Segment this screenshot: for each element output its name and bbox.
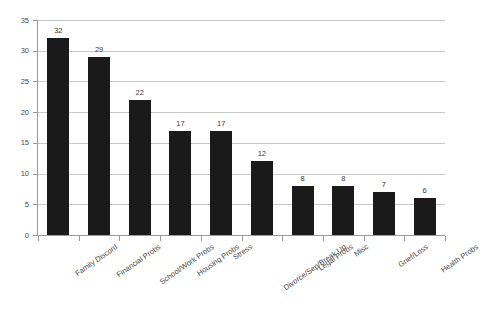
- bar-value-label: 7: [369, 181, 399, 189]
- bar[interactable]: [88, 57, 110, 235]
- y-tick-label: 15: [21, 140, 29, 148]
- bar[interactable]: [47, 38, 69, 235]
- bar[interactable]: [251, 161, 273, 235]
- x-tick-mark: [38, 236, 39, 241]
- x-axis-category-label: Grief/Loss: [397, 243, 429, 269]
- x-tick-mark: [201, 236, 202, 241]
- y-tick-label: 25: [21, 78, 29, 86]
- x-tick-mark: [242, 236, 243, 241]
- y-tick-label: 30: [21, 47, 29, 55]
- plot-area: 3229221717128876: [38, 20, 445, 235]
- x-tick-mark: [404, 236, 405, 241]
- y-tick-label: 20: [21, 109, 29, 117]
- x-tick-mark: [282, 236, 283, 241]
- x-tick-mark: [119, 236, 120, 241]
- bar[interactable]: [373, 192, 395, 235]
- x-tick-mark: [160, 236, 161, 241]
- bar-value-label: 12: [247, 150, 277, 158]
- bar-value-label: 17: [165, 120, 195, 128]
- x-tick-mark: [323, 236, 324, 241]
- bar[interactable]: [129, 100, 151, 235]
- bar-value-label: 6: [410, 187, 440, 195]
- bar[interactable]: [169, 131, 191, 235]
- bar-value-label: 8: [328, 175, 358, 183]
- y-tick-label: 10: [21, 170, 29, 178]
- gridline: [38, 20, 445, 21]
- bar[interactable]: [210, 131, 232, 235]
- y-tick-label: 0: [25, 232, 29, 240]
- x-tick-mark: [364, 236, 365, 241]
- bar-value-label: 8: [288, 175, 318, 183]
- bar-value-label: 22: [125, 89, 155, 97]
- x-axis-category-label: Misc: [353, 243, 370, 258]
- bar-value-label: 29: [84, 46, 114, 54]
- bar[interactable]: [414, 198, 436, 235]
- y-tick-label: 35: [21, 17, 29, 25]
- x-axis-category-label: Family Discord: [74, 243, 119, 278]
- x-tick-mark: [445, 236, 446, 241]
- bar[interactable]: [292, 186, 314, 235]
- x-axis-category-label: Health Probs: [439, 243, 479, 274]
- bar[interactable]: [332, 186, 354, 235]
- bar-value-label: 17: [206, 120, 236, 128]
- x-tick-mark: [79, 236, 80, 241]
- bar-value-label: 32: [43, 27, 73, 35]
- x-axis-category-label: Financial Probs: [115, 243, 162, 279]
- y-tick-label: 5: [25, 201, 29, 209]
